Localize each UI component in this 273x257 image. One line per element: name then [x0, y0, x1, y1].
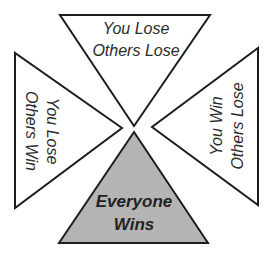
- label-win-lose-line1: You Win: [208, 96, 225, 156]
- label-everyone-wins-line2: Wins: [114, 215, 154, 234]
- label-win-lose-line2: Others Lose: [229, 82, 246, 169]
- label-lose-lose-line2: Others Lose: [92, 42, 179, 59]
- label-lose-lose-line1: You Lose: [103, 20, 170, 37]
- label-everyone-wins-line1: Everyone: [96, 192, 173, 211]
- label-lose-win-line1: You Lose: [44, 98, 61, 165]
- outcome-diagram: You Lose Others Lose You Lose Others Win…: [0, 0, 273, 257]
- label-lose-win-line2: Others Win: [23, 91, 40, 171]
